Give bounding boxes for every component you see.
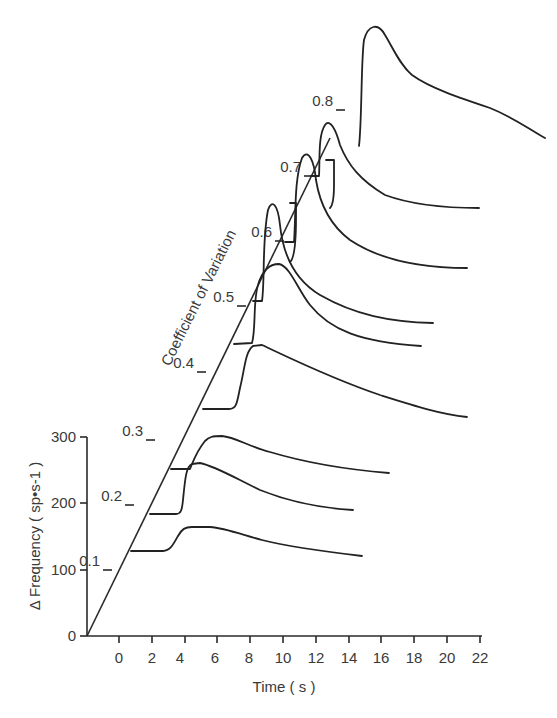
z-axis-ticks: 0.10.20.30.40.50.60.70.8 <box>79 92 345 570</box>
y-tick-label: 300 <box>51 428 76 445</box>
trace-connector <box>290 203 296 262</box>
trace-cv-0.3 <box>171 436 389 473</box>
svg-text:12: 12 <box>308 649 325 666</box>
z-tick-label: 0.1 <box>79 552 100 569</box>
z-tick-label: 0.3 <box>122 422 143 439</box>
svg-text:2: 2 <box>148 649 156 666</box>
svg-text:20: 20 <box>439 649 456 666</box>
trace-cv-0.4 <box>203 345 467 417</box>
z-tick-label: 0.6 <box>251 223 272 240</box>
svg-text:8: 8 <box>245 649 253 666</box>
y-tick-label: 0 <box>68 627 76 644</box>
x-tick-labels: 0 2 4 6 8 10 12 14 16 18 20 22 <box>115 649 489 666</box>
svg-text:14: 14 <box>341 649 358 666</box>
svg-text:10: 10 <box>275 649 292 666</box>
trace-cv-0.7 <box>285 154 467 268</box>
z-tick-label: 0.2 <box>101 487 122 504</box>
chart-canvas: 0.10.20.30.40.50.60.70.8 0 100 200 300 0… <box>0 0 557 718</box>
y-tick-label: 200 <box>51 494 76 511</box>
svg-text:4: 4 <box>176 649 184 666</box>
x-ticks <box>119 636 480 643</box>
trace-cv-0.8-peak <box>359 27 545 146</box>
z-axis-line <box>87 138 330 636</box>
z-tick-label: 0.5 <box>213 288 234 305</box>
trace-cv-0.8 <box>311 123 479 208</box>
svg-text:0: 0 <box>115 649 123 666</box>
y-axis-title: Δ Frequency ( sp•s-1 ) <box>26 462 43 611</box>
z-tick-label: 0.8 <box>312 92 333 109</box>
trace-cv-0.1 <box>131 527 362 556</box>
x-axis-title: Time ( s ) <box>253 678 316 695</box>
trace-cv-0.2 <box>150 463 353 514</box>
svg-text:6: 6 <box>211 649 219 666</box>
svg-text:16: 16 <box>373 649 390 666</box>
trace-connector <box>326 160 334 208</box>
svg-text:22: 22 <box>472 649 489 666</box>
svg-text:18: 18 <box>406 649 423 666</box>
trace-cv-0.5 <box>234 264 421 346</box>
y-tick-label: 100 <box>51 561 76 578</box>
